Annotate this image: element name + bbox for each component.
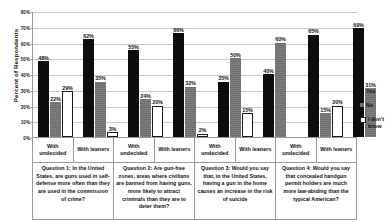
bar-rect[interactable] — [320, 113, 331, 137]
bar-value-label: 3% — [109, 126, 117, 132]
bar-group: 65%15%20% — [303, 12, 348, 137]
category-label-3: With leaners — [154, 138, 195, 162]
bar-rect[interactable] — [152, 106, 163, 138]
bar-value-label: 35% — [218, 75, 229, 81]
bar-rect[interactable] — [185, 87, 196, 137]
bar-rect[interactable] — [197, 134, 208, 137]
bar-value-label: 31% — [365, 82, 376, 88]
bar-groups: 48%22%29%62%35%3%55%24%20%66%32%2%35%50%… — [33, 12, 357, 137]
bar-dk[interactable]: 2% — [197, 134, 208, 137]
bar-rect[interactable] — [107, 132, 118, 137]
legend-label: No — [366, 102, 373, 109]
question-label-3: Question 3: Would you say that, in the U… — [194, 163, 275, 219]
bar-group: 62%35%3% — [78, 12, 123, 137]
legend-item-yes[interactable]: Yes — [360, 88, 392, 95]
y-tick-label: 80% — [21, 10, 30, 15]
bar-dk[interactable]: 20% — [332, 106, 343, 138]
bar-rect[interactable] — [128, 50, 139, 137]
bar-no[interactable]: 60% — [275, 43, 286, 138]
category-label-6: With undecided — [275, 138, 316, 162]
bar-value-label: 24% — [140, 93, 151, 99]
bar-value-label: 2% — [199, 127, 207, 133]
question-label-2: Question 2: Are gun-free zones, areas wh… — [113, 163, 194, 219]
bar-rect[interactable] — [308, 35, 319, 137]
bar-rect[interactable] — [230, 58, 241, 137]
bar-no[interactable]: 50% — [230, 58, 241, 137]
bar-no[interactable]: 35% — [95, 82, 106, 137]
bar-dk[interactable]: 29% — [62, 91, 73, 137]
bar-yes[interactable]: 48% — [38, 61, 49, 137]
bar-dk[interactable]: 3% — [107, 132, 118, 137]
y-tick-label: 40% — [21, 73, 30, 78]
plot-area: 0%10%20%30%40%50%60%70%80% 48%22%29%62%3… — [32, 12, 357, 138]
y-tick-label: 50% — [21, 57, 30, 62]
legend-item-no[interactable]: No — [360, 102, 392, 109]
bar-no[interactable]: 32% — [185, 87, 196, 137]
bar-value-label: 22% — [50, 96, 61, 102]
bar-value-label: 50% — [230, 52, 241, 58]
category-label-0: With undecided — [32, 138, 73, 162]
bar-value-label: 40% — [263, 68, 274, 74]
question-axis-row: Question 1: In the United States, are gu… — [32, 163, 357, 220]
bar-rect[interactable] — [62, 91, 73, 137]
bar-yes[interactable]: 65% — [308, 35, 319, 137]
bar-rect[interactable] — [275, 43, 286, 138]
bar-value-label: 32% — [185, 80, 196, 86]
y-tick-label: 10% — [21, 120, 30, 125]
bar-value-label: 15% — [242, 107, 253, 113]
bar-value-label: 29% — [62, 85, 73, 91]
legend-label: Yes — [366, 88, 375, 95]
y-tick-label: 30% — [21, 88, 30, 93]
category-label-4: With undecided — [194, 138, 235, 162]
bar-yes[interactable]: 66% — [173, 33, 184, 137]
bar-no[interactable]: 22% — [50, 102, 61, 137]
bar-value-label: 66% — [173, 27, 184, 33]
bar-rect[interactable] — [242, 113, 253, 137]
y-tick-label: 70% — [21, 25, 30, 30]
survey-bar-chart: Percent of Respondents 0%10%20%30%40%50%… — [0, 0, 392, 222]
bar-rect[interactable] — [218, 82, 229, 137]
category-label-1: With leaners — [73, 138, 114, 162]
bar-value-label: 69% — [353, 22, 364, 28]
bar-rect[interactable] — [95, 82, 106, 137]
bar-rect[interactable] — [140, 99, 151, 137]
legend-swatch-icon — [360, 117, 366, 123]
legend-swatch-icon — [360, 89, 364, 93]
bar-yes[interactable]: 35% — [218, 82, 229, 137]
bar-yes[interactable]: 62% — [83, 39, 94, 137]
y-tick-label: 20% — [21, 104, 30, 109]
bar-value-label: 20% — [332, 99, 343, 105]
category-axis-row: With undecidedWith leanersWith undecided… — [32, 138, 357, 163]
bar-rect[interactable] — [263, 74, 274, 137]
bar-rect[interactable] — [173, 33, 184, 137]
legend-item-dk[interactable]: I don't know — [360, 116, 392, 130]
category-label-7: With leaners — [316, 138, 358, 162]
bar-rect[interactable] — [38, 61, 49, 137]
y-tick-label: 0% — [23, 136, 30, 141]
bar-no[interactable]: 24% — [140, 99, 151, 137]
category-label-2: With undecided — [113, 138, 154, 162]
bar-dk[interactable]: 15% — [242, 113, 253, 137]
bar-rect[interactable] — [332, 106, 343, 138]
bar-value-label: 15% — [320, 107, 331, 113]
bar-rect[interactable] — [83, 39, 94, 137]
bar-value-label: 48% — [38, 55, 49, 61]
bar-value-label: 35% — [95, 75, 106, 81]
bar-rect[interactable] — [50, 102, 61, 137]
bar-yes[interactable]: 40% — [263, 74, 274, 137]
bar-yes[interactable]: 55% — [128, 50, 139, 137]
bar-value-label: 60% — [275, 36, 286, 42]
legend-label: I don't know — [368, 116, 392, 130]
bar-group: 40%60% — [258, 12, 303, 137]
legend-swatch-icon — [360, 103, 364, 107]
bar-group: 55%24%20% — [123, 12, 168, 137]
bar-no[interactable]: 15% — [320, 113, 331, 137]
bar-group: 66%32%2% — [168, 12, 213, 137]
question-label-4: Question 4: Would you say that concealed… — [275, 163, 357, 219]
bar-group: 35%50%15% — [213, 12, 258, 137]
bar-dk[interactable]: 20% — [152, 106, 163, 138]
bar-value-label: 65% — [308, 28, 319, 34]
bar-value-label: 55% — [128, 44, 139, 50]
bar-value-label: 62% — [83, 33, 94, 39]
category-label-5: With leaners — [235, 138, 276, 162]
